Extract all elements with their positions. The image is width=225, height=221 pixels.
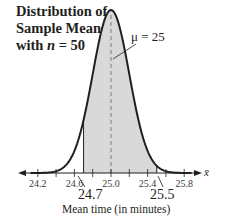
mean-label: μ = 25: [131, 29, 165, 44]
left-arrow-icon: [18, 170, 26, 176]
right-arrow-icon: [194, 170, 202, 176]
x-axis-tick-label: 24.2: [29, 178, 47, 189]
upper-bound-leader: [158, 176, 163, 187]
x-axis-tick-label: 25.8: [175, 178, 193, 189]
x-axis-title: Mean time (in minutes): [62, 203, 170, 216]
x-axis-tick-label: 25.0: [102, 178, 120, 189]
lower-bound-label: 24.7: [78, 187, 103, 202]
upper-bound-label: 25.5: [150, 187, 175, 202]
normal-distribution-chart: 24.224.625.025.425.8 x̄ 24.7 25.5 μ = 25…: [0, 0, 225, 221]
x-bar-label: x̄: [203, 166, 209, 178]
